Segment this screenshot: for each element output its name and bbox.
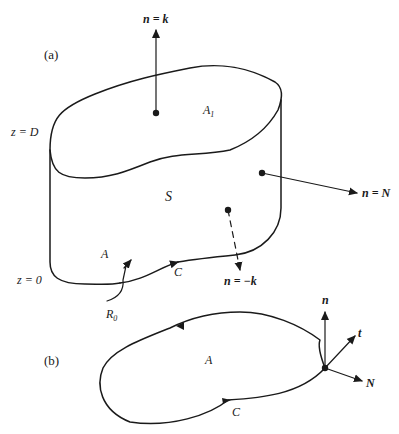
curve-arrow-bottom bbox=[222, 398, 231, 404]
curve-C-bottom bbox=[120, 262, 178, 283]
region-pointer-arrow bbox=[124, 260, 131, 268]
panel-b: (b) A C n t N bbox=[44, 293, 376, 423]
vector-N-label: N bbox=[365, 376, 376, 390]
z-top-label: z = D bbox=[10, 125, 39, 139]
normal-bottom-point bbox=[225, 207, 231, 213]
panel-a: n = k n = N n = −k (a) A1 S A C R0 z = D… bbox=[10, 12, 392, 323]
normal-top-point bbox=[153, 110, 159, 116]
top-lid-outline bbox=[50, 66, 281, 178]
diagram-canvas: n = k n = N n = −k (a) A1 S A C R0 z = D… bbox=[0, 0, 399, 434]
vector-N-arrow bbox=[325, 368, 362, 381]
normal-side-arrow bbox=[262, 173, 357, 193]
curve-C-b-label: C bbox=[232, 405, 241, 419]
region-label: R0 bbox=[105, 307, 117, 323]
z-bottom-label: z = 0 bbox=[16, 273, 42, 287]
vector-t-label: t bbox=[358, 326, 362, 340]
vector-t-arrow bbox=[325, 336, 355, 368]
normal-top-label: n = k bbox=[143, 12, 169, 26]
normal-bottom-arrow bbox=[228, 210, 240, 270]
panel-a-label: (a) bbox=[44, 47, 58, 62]
normal-bottom-label: n = −k bbox=[224, 274, 257, 288]
surface-label: S bbox=[165, 189, 172, 204]
vector-n-label: n bbox=[322, 293, 329, 307]
cylinder-left-side bbox=[50, 150, 120, 284]
top-area-label: A1 bbox=[202, 103, 214, 119]
bottom-area-label: A bbox=[100, 247, 109, 261]
normal-side-label: n = N bbox=[362, 186, 392, 200]
area-b-label: A bbox=[204, 353, 213, 367]
cylinder-right-side bbox=[178, 100, 281, 262]
curve-C-label: C bbox=[174, 265, 183, 279]
normal-side-point bbox=[259, 170, 265, 176]
curve-C-closed bbox=[100, 312, 325, 423]
panel-b-label: (b) bbox=[44, 353, 59, 368]
